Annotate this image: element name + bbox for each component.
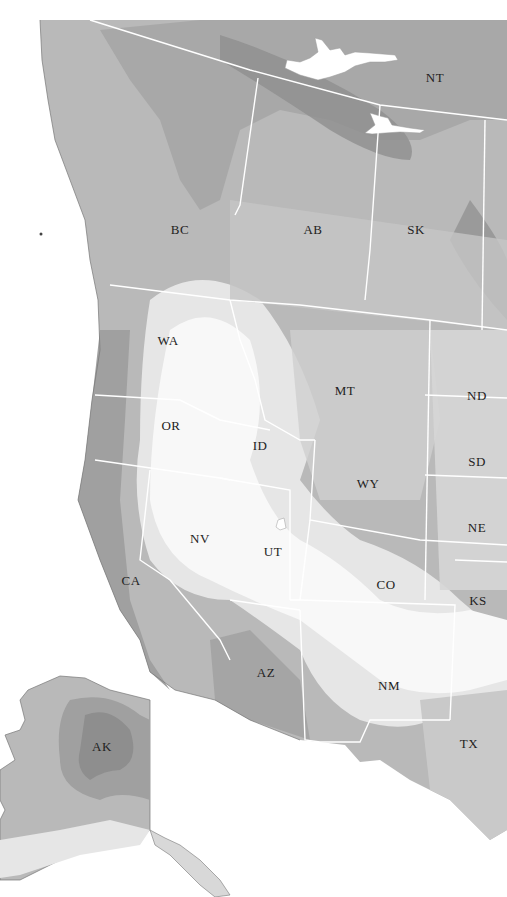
label-az: AZ: [257, 665, 275, 681]
label-sd: SD: [468, 454, 486, 470]
label-nd: ND: [467, 388, 487, 404]
label-ca: CA: [121, 573, 140, 589]
label-wy: WY: [357, 476, 380, 492]
alaska-panhandle: [150, 830, 230, 897]
label-nm: NM: [378, 678, 400, 694]
label-or: OR: [161, 418, 180, 434]
label-sk: SK: [407, 222, 425, 238]
label-nt: NT: [426, 70, 444, 86]
label-nv: NV: [190, 531, 210, 547]
label-co: CO: [376, 577, 395, 593]
label-ab: AB: [303, 222, 322, 238]
label-id: ID: [253, 438, 268, 454]
label-tx: TX: [460, 736, 478, 752]
label-ks: KS: [469, 593, 487, 609]
label-ne: NE: [468, 520, 486, 536]
label-mt: MT: [335, 383, 356, 399]
map-dot: [40, 233, 43, 236]
label-ut: UT: [264, 544, 282, 560]
label-bc: BC: [171, 222, 189, 238]
label-wa: WA: [157, 333, 178, 349]
alaska-inset: [0, 676, 230, 897]
label-ak: AK: [92, 739, 112, 755]
